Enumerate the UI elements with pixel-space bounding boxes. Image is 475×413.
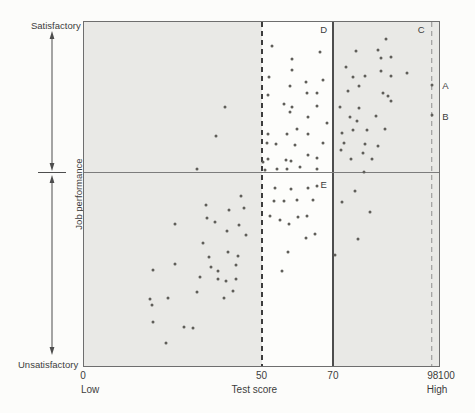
data-point [275, 167, 278, 170]
performance-cutoff-line [84, 172, 439, 173]
data-point [295, 198, 298, 201]
data-point [307, 187, 310, 190]
x-tick-label-70: 70 [327, 370, 338, 381]
x-axis-caption: Test score [232, 384, 278, 395]
data-point [321, 79, 324, 82]
data-point [293, 144, 296, 147]
data-point [173, 263, 176, 266]
data-point [316, 105, 319, 108]
x-tick-row: 0507098100 [83, 370, 440, 382]
data-point [266, 93, 269, 96]
x-caption-row: LowTest scoreHigh [83, 384, 440, 396]
data-point [341, 201, 344, 204]
data-point [430, 113, 433, 116]
data-point [222, 296, 225, 299]
data-point [297, 216, 300, 219]
data-point [235, 277, 238, 280]
data-point [281, 269, 284, 272]
data-point [207, 255, 210, 258]
score-cutoff-line-70 [332, 22, 334, 366]
data-point [217, 277, 220, 280]
data-point [382, 92, 385, 95]
data-point [213, 221, 216, 224]
data-point [262, 161, 265, 164]
data-point [227, 209, 230, 212]
figure-canvas: Satisfactory Unsatisfactory Job performa… [0, 0, 475, 413]
data-point [366, 129, 369, 132]
region-label-B: B [442, 113, 448, 123]
data-point [385, 38, 388, 41]
data-point [304, 81, 307, 84]
data-point [363, 74, 366, 77]
data-point [217, 270, 220, 273]
data-point [369, 211, 372, 214]
data-point [210, 265, 213, 268]
data-point [290, 58, 293, 61]
data-point [286, 167, 289, 170]
data-point [288, 222, 291, 225]
data-point [265, 142, 268, 145]
data-point [173, 222, 176, 225]
data-point [304, 236, 307, 239]
data-point [339, 105, 342, 108]
data-point [363, 170, 366, 173]
data-point [183, 326, 186, 329]
data-point [383, 127, 386, 130]
y-axis-title: Job performance [73, 158, 84, 229]
data-point [152, 320, 155, 323]
data-point [390, 56, 393, 59]
data-point [349, 157, 352, 160]
data-point [269, 214, 272, 217]
data-point [316, 156, 319, 159]
x-tick-label-50: 50 [256, 370, 267, 381]
data-point [215, 135, 218, 138]
data-point [267, 75, 270, 78]
data-point [296, 127, 299, 130]
data-point [196, 290, 199, 293]
data-point [165, 342, 168, 345]
data-point [430, 83, 433, 86]
data-point [283, 199, 286, 202]
data-point [313, 232, 316, 235]
data-point [406, 71, 409, 74]
data-point [290, 106, 293, 109]
data-point [226, 230, 229, 233]
data-point [274, 143, 277, 146]
x-tick-label-100: 100 [438, 370, 455, 381]
data-point [305, 215, 308, 218]
region-label-C: C [418, 25, 425, 35]
data-point [387, 94, 390, 97]
data-point [240, 195, 243, 198]
data-point [380, 69, 383, 72]
data-point [278, 219, 281, 222]
data-point [305, 91, 308, 94]
y-axis-bottom-label: Unsatisfactory [18, 359, 78, 370]
data-point [242, 206, 245, 209]
data-point [271, 45, 274, 48]
data-point [341, 131, 344, 134]
data-point [344, 66, 347, 69]
data-point [289, 187, 292, 190]
data-point [245, 233, 248, 236]
x-axis-caption: Low [81, 384, 99, 395]
x-axis-caption: High [427, 384, 448, 395]
data-point [352, 76, 355, 79]
y-axis-top-label: Satisfactory [31, 20, 81, 31]
data-point [283, 102, 286, 105]
x-tick-label-0: 0 [80, 370, 86, 381]
data-point [227, 250, 230, 253]
data-point [380, 57, 383, 60]
data-point [285, 132, 288, 135]
data-point [149, 297, 152, 300]
data-point [376, 145, 379, 148]
region-label-D: D [320, 25, 327, 35]
data-point [287, 250, 290, 253]
data-point [201, 241, 204, 244]
data-point [267, 132, 270, 135]
data-point [167, 296, 170, 299]
data-point [363, 143, 366, 146]
data-point [340, 148, 343, 151]
data-point [374, 114, 377, 117]
data-point [389, 75, 392, 78]
x-tick-label-98: 98 [427, 370, 438, 381]
